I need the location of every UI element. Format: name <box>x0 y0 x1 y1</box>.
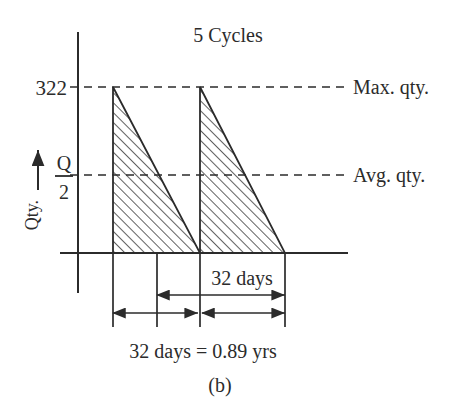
dimension-extension-lines <box>113 253 285 327</box>
chart-title: 5 Cycles <box>193 24 263 47</box>
y-axis-label: Qty. <box>22 200 42 230</box>
q-over-2-fraction: Q 2 <box>55 152 73 203</box>
y-axis-label-group: Qty. <box>22 150 42 230</box>
y-tick-label-322: 322 <box>36 76 68 100</box>
figure-caption: (b) <box>208 374 231 397</box>
avg-qty-label: Avg. qty. <box>353 164 425 187</box>
max-qty-label: Max. qty. <box>353 76 429 99</box>
bottom-note-label: 32 days = 0.89 yrs <box>129 340 277 363</box>
fraction-denominator: 2 <box>59 181 69 203</box>
fraction-numerator: Q <box>57 152 72 174</box>
figure-canvas: 5 Cycles 322 Q 2 Qty. Max. qty. Avg. qty… <box>0 0 458 401</box>
dimension-32-days-upper: 32 days <box>157 267 285 295</box>
inventory-area-group <box>113 87 285 253</box>
inventory-sawtooth-figure: 5 Cycles 322 Q 2 Qty. Max. qty. Avg. qty… <box>0 0 458 401</box>
cycle-triangle-2 <box>200 87 285 253</box>
cycle-triangle-1 <box>113 87 200 253</box>
dimension-label-32-days: 32 days <box>211 267 273 290</box>
